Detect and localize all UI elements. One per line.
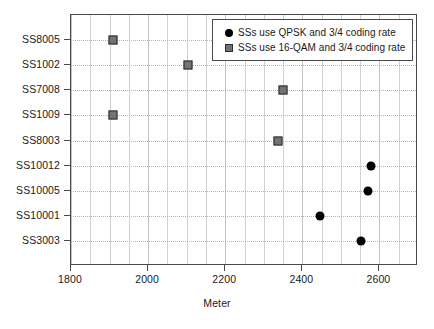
x-axis-title: Meter	[0, 297, 434, 309]
y-axis-tick	[64, 64, 71, 65]
y-axis-label: SS8005	[22, 33, 60, 45]
x-axis-tick	[301, 265, 302, 271]
x-axis-tick	[70, 265, 71, 271]
gridline-vertical	[167, 15, 168, 264]
y-axis-tick	[64, 190, 71, 191]
scatter-chart-figure: SS8005SS1002SS7008SS1009SS8003SS10012SS1…	[0, 0, 434, 329]
y-axis-tick	[64, 165, 71, 166]
x-axis-label: 2400	[289, 273, 313, 285]
data-point-marker	[109, 111, 118, 120]
y-axis-tick	[64, 215, 71, 216]
y-axis-tick	[64, 140, 71, 141]
gridline-vertical	[148, 15, 149, 264]
y-axis-tick	[64, 240, 71, 241]
gridline-vertical	[206, 15, 207, 264]
y-axis-label: SS10012	[16, 159, 60, 171]
data-point-marker	[366, 161, 375, 170]
y-axis-label: SS1009	[22, 108, 60, 120]
legend-item-label: SSs use QPSK and 3/4 coding rate	[238, 27, 396, 38]
y-axis-label: SS1002	[22, 58, 60, 70]
x-axis-tick	[147, 265, 148, 271]
y-axis-label: SS7008	[22, 83, 60, 95]
y-axis-tick	[64, 114, 71, 115]
square-marker-icon	[220, 44, 238, 52]
x-axis-label: 2000	[135, 273, 159, 285]
y-axis-tick	[64, 89, 71, 90]
gridline-horizontal	[71, 216, 416, 218]
y-axis-label: SS3003	[22, 234, 60, 246]
gridline-horizontal	[71, 90, 416, 92]
gridline-horizontal	[71, 141, 416, 143]
gridline-vertical	[90, 15, 91, 264]
x-axis-tick	[224, 265, 225, 271]
gridline-horizontal	[71, 166, 416, 168]
legend-item[interactable]: SSs use 16-QAM and 3/4 coding rate	[220, 40, 405, 55]
data-point-marker	[183, 61, 192, 70]
y-axis-tick	[64, 39, 71, 40]
gridline-vertical	[71, 15, 72, 264]
chart-legend: SSs use QPSK and 3/4 coding rateSSs use …	[212, 19, 413, 61]
gridline-vertical	[110, 15, 111, 264]
data-point-marker	[316, 211, 325, 220]
gridline-vertical	[129, 15, 130, 264]
y-axis-label: SS10005	[16, 184, 60, 196]
gridline-vertical	[187, 15, 188, 264]
y-axis-label: SS8003	[22, 134, 60, 146]
circle-marker-icon	[220, 29, 238, 37]
data-point-marker	[109, 36, 118, 45]
legend-item-label: SSs use 16-QAM and 3/4 coding rate	[238, 42, 405, 53]
y-axis-label: SS10001	[16, 209, 60, 221]
gridline-horizontal	[71, 65, 416, 67]
data-point-marker	[363, 186, 372, 195]
data-point-marker	[274, 136, 283, 145]
x-axis-label: 1800	[58, 273, 82, 285]
data-point-marker	[279, 86, 288, 95]
gridline-horizontal	[71, 115, 416, 117]
data-point-marker	[356, 236, 365, 245]
x-axis-label: 2200	[212, 273, 236, 285]
legend-item[interactable]: SSs use QPSK and 3/4 coding rate	[220, 25, 405, 40]
x-axis-tick	[378, 265, 379, 271]
x-axis-label: 2600	[367, 273, 391, 285]
